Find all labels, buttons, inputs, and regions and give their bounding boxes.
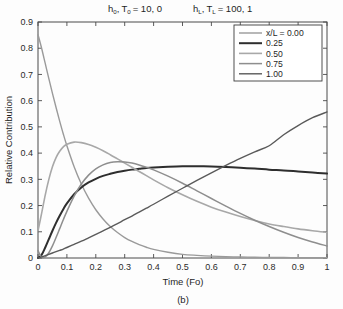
figure-caption: (b)	[177, 294, 189, 305]
series-line-3	[38, 162, 327, 258]
y-axis-label: Relative Contribution	[3, 96, 14, 184]
legend-label-2[interactable]: 0.50	[266, 49, 283, 59]
x-tick-label: 0.9	[292, 262, 305, 272]
title-comma-2: ,	[202, 3, 205, 14]
y-tick-label: 0.2	[20, 201, 33, 211]
x-tick-label: 0.4	[147, 262, 160, 272]
x-tick-label: 0	[35, 262, 40, 272]
figure-container: h0,T0= 10, 0 hL,TL= 100, 1 00.10.20.30.4…	[0, 0, 343, 309]
x-tick-label: 0.7	[234, 262, 247, 272]
x-tick-label: 0.3	[118, 262, 131, 272]
y-tick-label: 0	[28, 253, 33, 263]
title-t0-sub: 0	[127, 8, 131, 15]
y-tick-label: 0.5	[20, 122, 33, 132]
legend-label-0[interactable]: x/L = 0.00	[266, 28, 304, 38]
legend-label-1[interactable]: 0.25	[266, 38, 283, 48]
y-tick-label: 0.8	[20, 43, 33, 53]
x-tick-label: 0.6	[205, 262, 218, 272]
chart-title: h0,T0= 10, 0 hL,TL= 100, 1	[108, 3, 252, 15]
x-tick-label: 0.2	[90, 262, 103, 272]
chart-legend[interactable]: x/L = 0.000.250.500.751.00	[234, 25, 322, 81]
x-tick-label: 0.5	[176, 262, 189, 272]
series-line-1	[38, 166, 327, 258]
title-left-values: = 10, 0	[133, 3, 162, 14]
legend-label-4[interactable]: 1.00	[266, 69, 283, 79]
svg-text:hL,TL= 100, 1: hL,TL= 100, 1	[193, 3, 252, 15]
y-tick-label: 0.3	[20, 175, 33, 185]
title-comma-1: ,	[117, 3, 120, 14]
x-tick-label: 0.1	[61, 262, 74, 272]
y-tick-label: 0.7	[20, 70, 33, 80]
title-right-values: = 100, 1	[218, 3, 253, 14]
svg-text:h0,T0= 10, 0: h0,T0= 10, 0	[108, 3, 162, 15]
line-chart: h0,T0= 10, 0 hL,TL= 100, 1 00.10.20.30.4…	[0, 0, 343, 309]
x-axis-label: Time (Fo)	[163, 276, 204, 287]
legend-label-3[interactable]: 0.75	[266, 59, 283, 69]
y-tick-label: 0.9	[20, 17, 33, 27]
title-tL-sub: L	[212, 8, 216, 15]
y-tick-label: 0.1	[20, 227, 33, 237]
y-tick-label: 0.4	[20, 148, 33, 158]
x-tick-label: 1	[324, 262, 329, 272]
x-tick-label: 0.8	[263, 262, 276, 272]
y-tick-label: 0.6	[20, 96, 33, 106]
